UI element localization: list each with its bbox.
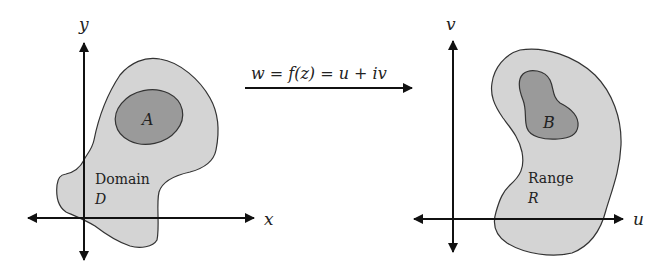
mapping-formula: w = f(z) = u + iv: [251, 64, 387, 83]
range-label: Range: [528, 170, 573, 186]
range-region: [491, 49, 621, 255]
subset-b-label: B: [542, 113, 555, 132]
subset-a-label: A: [140, 110, 154, 129]
x-axis-label: x: [264, 209, 274, 229]
domain-plane: y x A Domain D: [28, 14, 274, 260]
range-plane: v u B Range R: [414, 14, 644, 255]
v-axis-label: v: [446, 14, 456, 34]
domain-symbol: D: [94, 191, 106, 207]
u-axis-label: u: [633, 209, 644, 229]
mapping-diagram: y x A Domain D w = f(z) = u + iv v u B R…: [0, 0, 666, 274]
y-axis-label: y: [78, 14, 89, 34]
range-symbol: R: [527, 190, 539, 206]
domain-label: Domain: [95, 171, 150, 187]
mapping-arrow: w = f(z) = u + iv: [245, 64, 412, 88]
